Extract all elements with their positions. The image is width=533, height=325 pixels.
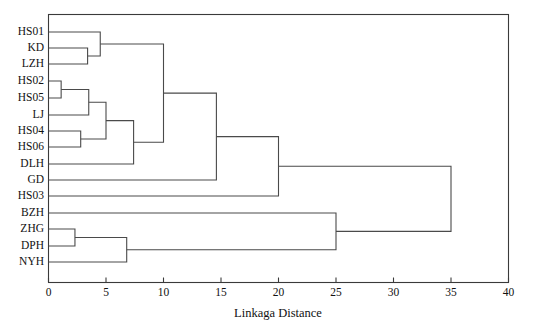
leaf-label-lzh: LZH — [22, 57, 44, 69]
x-tick-label-25: 25 — [330, 286, 342, 298]
dendrogram-link-m10 — [49, 137, 279, 196]
x-axis-title: Linkaga Distance — [234, 306, 322, 320]
dendrogram-link-m3 — [49, 81, 62, 98]
x-tick-label-15: 15 — [215, 286, 227, 298]
leaf-label-zhg: ZHG — [20, 222, 44, 234]
leaf-label-nyh: NYH — [19, 255, 44, 267]
dendrogram-figure: 0 5 10 15 20 25 30 35 40 Linkaga Distanc… — [0, 0, 533, 325]
leaf-label-lj: LJ — [33, 108, 45, 120]
x-axis-tick-labels: 0 5 10 15 20 25 30 35 40 — [46, 286, 515, 298]
x-tick-label-35: 35 — [445, 286, 457, 298]
dendrogram-link-m11 — [49, 229, 75, 246]
dendrogram-link-m2 — [49, 32, 101, 56]
dendrogram-link-m5 — [49, 131, 81, 147]
x-axis-ticks — [49, 278, 509, 283]
leaf-label-dlh: DLH — [20, 157, 44, 169]
dendrogram-link-m13 — [49, 213, 337, 250]
leaf-label-hs04: HS04 — [18, 124, 44, 136]
leaf-label-gd: GD — [27, 173, 44, 185]
dendrogram-plot: 0 5 10 15 20 25 30 35 40 Linkaga Distanc… — [0, 0, 533, 325]
leaf-label-hs01: HS01 — [18, 25, 44, 37]
x-tick-label-10: 10 — [158, 286, 170, 298]
dendrogram-link-m1 — [49, 48, 88, 64]
dendrogram-link-m12 — [49, 238, 127, 263]
dendrogram-link-m6 — [81, 102, 106, 139]
dendrogram-links — [49, 32, 452, 262]
leaf-label-bzh: BZH — [21, 206, 44, 218]
leaf-label-hs02: HS02 — [18, 74, 44, 86]
x-tick-label-30: 30 — [388, 286, 400, 298]
dendrogram-link-m9 — [49, 93, 217, 180]
x-tick-label-0: 0 — [46, 286, 52, 298]
dendrogram-link-m7 — [49, 121, 134, 164]
x-tick-label-5: 5 — [103, 286, 109, 298]
leaf-label-hs03: HS03 — [18, 189, 44, 201]
leaf-labels: HS01 KD LZH HS02 HS05 LJ HS04 HS06 DLH G… — [18, 25, 45, 267]
leaf-label-dph: DPH — [21, 239, 44, 251]
leaf-label-hs06: HS06 — [18, 140, 44, 152]
dendrogram-link-m8 — [100, 44, 163, 142]
x-tick-label-40: 40 — [503, 286, 515, 298]
leaf-label-hs05: HS05 — [18, 91, 44, 103]
dendrogram-link-m14 — [279, 166, 452, 231]
x-tick-label-20: 20 — [273, 286, 285, 298]
dendrogram-link-m4 — [49, 90, 89, 116]
leaf-label-kd: KD — [27, 41, 44, 53]
